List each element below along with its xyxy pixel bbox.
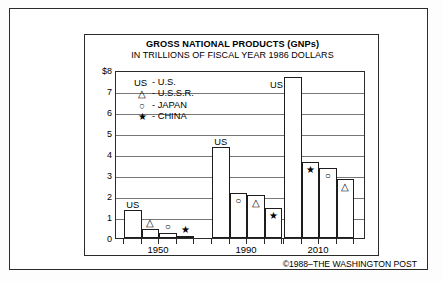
triangle-icon: △ bbox=[341, 182, 349, 192]
legend-row: △- U.S.S.R. bbox=[134, 88, 194, 99]
triangle-icon: △ bbox=[252, 198, 260, 208]
y-axis-tick-label: 7 bbox=[86, 88, 112, 97]
chart-legend: US- U.S.△- U.S.S.R.○- JAPAN★- CHINA bbox=[134, 77, 194, 123]
bar-value-label: US bbox=[126, 200, 139, 210]
chart-panel: GROSS NATIONAL PRODUCTS (GNPs) IN TRILLI… bbox=[84, 34, 379, 256]
y-axis-tick-labels: $876543210 bbox=[85, 71, 112, 239]
bar: △ bbox=[337, 179, 355, 238]
star-icon: ★ bbox=[134, 111, 150, 122]
title-block: GROSS NATIONAL PRODUCTS (GNPs) IN TRILLI… bbox=[85, 39, 380, 61]
x-axis-group-labels: 195019902010 bbox=[115, 244, 365, 258]
circle-icon: ○ bbox=[134, 100, 150, 111]
figure: GROSS NATIONAL PRODUCTS (GNPs) IN TRILLI… bbox=[0, 0, 443, 281]
chart-title: GROSS NATIONAL PRODUCTS (GNPs) bbox=[85, 39, 380, 50]
star-icon: ★ bbox=[306, 165, 315, 175]
x-axis-group-label: 2010 bbox=[307, 244, 328, 255]
legend-row: ★- CHINA bbox=[134, 111, 194, 122]
figure-outer-frame: GROSS NATIONAL PRODUCTS (GNPs) IN TRILLI… bbox=[9, 8, 428, 270]
y-axis-tick-label: 1 bbox=[86, 214, 112, 223]
legend-row: ○- JAPAN bbox=[134, 100, 194, 111]
star-icon: ★ bbox=[181, 225, 190, 235]
bar: △ bbox=[247, 195, 265, 238]
gridline bbox=[116, 156, 364, 157]
bar: ★ bbox=[265, 208, 283, 238]
y-axis-tick-label: 5 bbox=[86, 130, 112, 139]
bar: US bbox=[284, 77, 302, 238]
bar: US bbox=[212, 147, 230, 238]
triangle-icon: △ bbox=[134, 88, 150, 99]
copyright-credit: ©1988–THE WASHINGTON POST bbox=[10, 259, 429, 269]
plot-area: US△○★US○△★US★○△ US- U.S.△- U.S.S.R.○- JA… bbox=[115, 71, 365, 239]
bar: US bbox=[124, 210, 142, 238]
bar-value-label: US bbox=[214, 137, 227, 147]
legend-label: - JAPAN bbox=[150, 100, 187, 111]
y-axis-tick-label: 0 bbox=[86, 235, 112, 244]
triangle-icon: △ bbox=[146, 218, 154, 228]
chart-subtitle: IN TRILLIONS OF FISCAL YEAR 1986 DOLLARS bbox=[85, 50, 380, 61]
legend-label: - U.S.S.R. bbox=[150, 88, 194, 99]
bar: ○ bbox=[230, 193, 248, 238]
legend-label: - U.S. bbox=[150, 77, 176, 88]
bar: ○ bbox=[159, 233, 177, 238]
y-axis-tick-label: 6 bbox=[86, 109, 112, 118]
bar: △ bbox=[142, 229, 160, 238]
x-axis-group-label: 1950 bbox=[147, 244, 168, 255]
y-axis-tick-label: 4 bbox=[86, 151, 112, 160]
bar: ○ bbox=[319, 168, 337, 238]
star-icon: ★ bbox=[269, 211, 278, 221]
circle-icon: ○ bbox=[235, 196, 241, 206]
x-axis-group-label: 1990 bbox=[235, 244, 256, 255]
legend-label: - CHINA bbox=[150, 111, 187, 122]
legend-row: US- U.S. bbox=[134, 77, 194, 88]
y-axis-tick-label: 3 bbox=[86, 172, 112, 181]
y-axis-tick-label: $8 bbox=[86, 67, 112, 76]
us-label: US bbox=[134, 77, 150, 88]
bar: ★ bbox=[302, 162, 320, 238]
bar: ★ bbox=[177, 236, 195, 239]
gridline bbox=[116, 135, 364, 136]
circle-icon: ○ bbox=[165, 222, 171, 232]
y-axis-tick-label: 2 bbox=[86, 193, 112, 202]
bar-value-label: US bbox=[270, 80, 283, 90]
circle-icon: ○ bbox=[325, 171, 331, 181]
